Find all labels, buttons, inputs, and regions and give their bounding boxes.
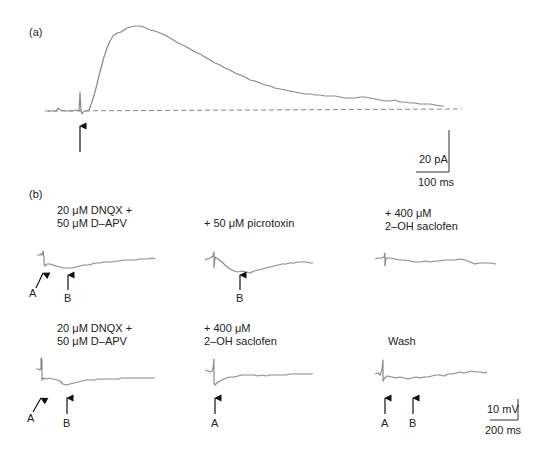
scale-label-200ms: 200 ms [485,424,521,437]
condition-r2c3-line1 [388,322,416,335]
condition-r2c2-line2: 2–OH saclofen [204,335,277,348]
condition-r1c2-line1 [204,204,294,217]
condition-r1c3-line1: + 400 μM [385,207,458,220]
condition-r1c3: + 400 μM 2–OH saclofen [385,207,458,233]
panel-a-plot [45,26,462,172]
condition-r1c1-line2: 50 μM D–APV [57,217,132,230]
condition-r1c2: + 50 μM picrotoxin [204,204,294,230]
figure-canvas [0,0,541,467]
current-trace [48,26,444,114]
panel-b-row2-col1 [33,358,155,414]
condition-r2c1: 20 μM DNQX + 50 μM D–APV [57,322,132,348]
scale-label-20pA: 20 pA [419,153,448,166]
condition-r1c1-line1: 20 μM DNQX + [57,204,132,217]
condition-r2c2-line1: + 400 μM [204,322,277,335]
baseline-dashed [45,109,462,111]
marker-r2c1-A: A [27,412,34,425]
marker-r2c3-B: B [409,417,416,430]
panel-b-row1-col1 [36,251,155,290]
marker-r2c2-A: A [211,417,218,430]
panel-b-row1-col2 [205,252,313,290]
scale-label-100ms: 100 ms [418,176,454,189]
condition-r2c1-line2: 50 μM D–APV [57,335,132,348]
condition-r1c1: 20 μM DNQX + 50 μM D–APV [57,204,132,230]
condition-r2c2: + 400 μM 2–OH saclofen [204,322,277,348]
condition-r1c2-line2: + 50 μM picrotoxin [204,217,294,230]
panel-b-row1-col3 [375,253,496,266]
marker-r1c1-A: A [29,287,36,300]
marker-r1c1-B: B [64,292,71,305]
marker-r2c3-A: A [381,417,388,430]
scale-label-10mV: 10 mV [487,403,519,416]
marker-r2c1-B: B [63,417,70,430]
panel-b-row2-col2 [205,359,313,414]
condition-r2c3: Wash [388,322,416,348]
condition-r2c3-line2: Wash [388,335,416,348]
marker-r1c2-B: B [236,292,243,305]
condition-r2c1-line1: 20 μM DNQX + [57,322,132,335]
condition-r1c3-line2: 2–OH saclofen [385,220,458,233]
